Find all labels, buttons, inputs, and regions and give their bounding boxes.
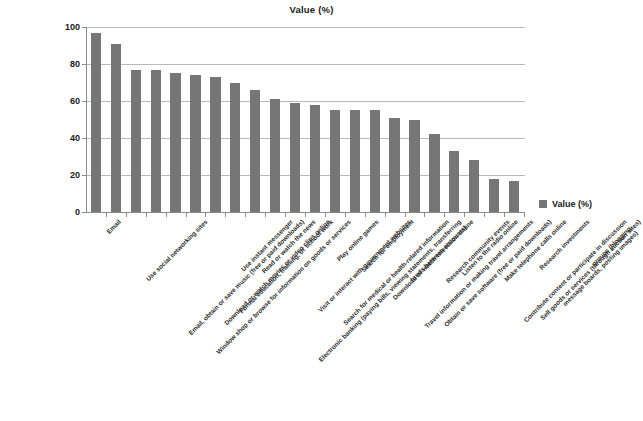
x-axis-tick-mark (524, 213, 525, 217)
x-axis-tick-mark (285, 213, 286, 217)
x-axis-tick-mark (166, 213, 167, 217)
x-axis-tick-mark (405, 213, 406, 217)
bar[interactable] (230, 83, 240, 213)
legend-label-value: Value (%) (552, 199, 592, 209)
bar[interactable] (91, 33, 101, 212)
chart-title: Value (%) (0, 4, 623, 15)
x-axis-tick-mark (126, 213, 127, 217)
legend-swatch-value (539, 200, 547, 208)
bar[interactable] (111, 44, 121, 212)
x-axis-tick-marks (86, 213, 524, 217)
bar[interactable] (170, 73, 180, 212)
bar[interactable] (469, 160, 479, 212)
x-axis-tick-mark (345, 213, 346, 217)
x-axis-tick-mark (365, 213, 366, 217)
y-axis-tick-labels: 020406080100 (52, 27, 80, 212)
x-axis-tick-mark (265, 213, 266, 217)
bar[interactable] (389, 118, 399, 212)
x-axis-tick-mark (464, 213, 465, 217)
x-axis-tick-mark (484, 213, 485, 217)
x-axis-tick-mark (146, 213, 147, 217)
bar[interactable] (370, 110, 380, 212)
bar[interactable] (489, 179, 499, 212)
bar[interactable] (250, 90, 260, 212)
y-axis-tick-label: 0 (56, 207, 80, 217)
bars-layer (86, 27, 524, 212)
x-axis-tick-mark (424, 213, 425, 217)
bar[interactable] (270, 99, 280, 212)
y-axis-tick-label: 40 (56, 133, 80, 143)
x-axis-tick-mark (504, 213, 505, 217)
y-axis-tick-label: 80 (56, 59, 80, 69)
bar[interactable] (449, 151, 459, 212)
bar[interactable] (330, 110, 340, 212)
y-axis-tick-label: 100 (56, 22, 80, 32)
bar[interactable] (350, 110, 360, 212)
x-axis-tick-mark (186, 213, 187, 217)
bar[interactable] (190, 75, 200, 212)
bar[interactable] (429, 134, 439, 212)
y-axis-tick-label: 20 (56, 170, 80, 180)
x-axis-category-label: Email (105, 218, 123, 236)
x-axis-category-label: Use social networking sites (144, 218, 209, 283)
x-axis-tick-mark (444, 213, 445, 217)
legend: Value (%) (539, 199, 592, 209)
x-axis-tick-mark (225, 213, 226, 217)
x-axis-tick-mark (106, 213, 107, 217)
bar[interactable] (509, 181, 519, 212)
x-axis-tick-mark (305, 213, 306, 217)
bar[interactable] (151, 70, 161, 212)
bar[interactable] (409, 120, 419, 213)
x-axis-tick-mark (325, 213, 326, 217)
bar[interactable] (310, 105, 320, 212)
x-axis-tick-mark (385, 213, 386, 217)
bar[interactable] (131, 70, 141, 212)
bar[interactable] (210, 77, 220, 212)
x-axis-tick-mark (205, 213, 206, 217)
y-axis-tick-label: 60 (56, 96, 80, 106)
x-axis-tick-mark (245, 213, 246, 217)
bar[interactable] (290, 103, 300, 212)
